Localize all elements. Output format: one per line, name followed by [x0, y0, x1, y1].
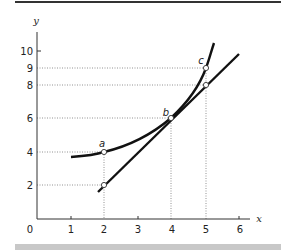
y-tick-9: 9	[27, 63, 33, 74]
axes	[37, 32, 250, 219]
marked-points	[101, 65, 208, 187]
x-tick-4: 4	[169, 224, 175, 235]
x-tick-5: 5	[203, 224, 209, 235]
y-tick-10: 10	[20, 46, 33, 57]
origin-label: 0	[27, 224, 33, 235]
bottom-bar	[15, 244, 281, 250]
y-axis-title: y	[32, 15, 39, 26]
point-c-marker	[203, 65, 208, 70]
y-tick-6: 6	[27, 113, 33, 124]
point-a-marker	[101, 149, 106, 154]
x-tick-3: 3	[135, 224, 141, 235]
point-c-label: c	[198, 55, 204, 66]
x-tick-6: 6	[237, 224, 243, 235]
y-tick-8: 8	[27, 80, 33, 91]
point-line-x2-marker	[101, 182, 106, 187]
straight-line-series	[98, 54, 239, 192]
x-tick-1: 1	[68, 224, 74, 235]
point-line-x5-marker	[203, 82, 208, 87]
point-a-label: a	[99, 138, 105, 149]
guide-lines	[37, 68, 206, 219]
y-tick-2: 2	[27, 180, 33, 191]
y-tick-4: 4	[27, 147, 33, 158]
x-tick-2: 2	[101, 224, 107, 235]
chart: 10 9 8 6 4 2 0 1 2 3 4 5 6 y x a b c	[0, 0, 283, 250]
point-b-label: b	[163, 107, 169, 118]
x-axis-title: x	[256, 213, 262, 224]
